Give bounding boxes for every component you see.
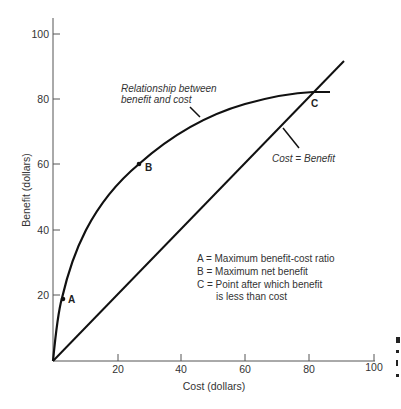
point-b-marker xyxy=(137,162,142,167)
legend-item: A = Maximum benefit-cost ratio xyxy=(197,253,335,264)
x-tick-label: 40 xyxy=(175,363,187,375)
y-tick-label: 80 xyxy=(37,93,49,105)
y-tick-label: 60 xyxy=(37,158,49,170)
y-tick-label: 40 xyxy=(37,224,49,236)
legend-item: is less than cost xyxy=(216,291,287,302)
curve-annotation: benefit and cost xyxy=(121,94,193,105)
line-leader-line xyxy=(283,128,299,148)
legend: A = Maximum benefit-cost ratio B = Maxim… xyxy=(197,253,335,302)
y-tick-label: 100 xyxy=(31,28,49,40)
curve-leader-line xyxy=(190,107,200,117)
point-a-label: A xyxy=(68,294,75,305)
y-ticks: 100 80 60 40 20 xyxy=(31,28,60,301)
cropped-page-text xyxy=(396,337,400,377)
point-c-label: C xyxy=(311,98,318,109)
y-tick-label: 20 xyxy=(37,289,49,301)
x-tick-label: 20 xyxy=(112,363,124,375)
x-tick-label: 80 xyxy=(303,363,315,375)
point-b-label: B xyxy=(145,162,152,173)
benefit-cost-chart: 100 80 60 40 20 20 40 60 80 100 Cost (do… xyxy=(0,0,401,409)
legend-item: B = Maximum net benefit xyxy=(197,266,308,277)
x-tick-label: 100 xyxy=(365,361,383,373)
y-axis-title: Benefit (dollars) xyxy=(20,153,32,227)
benefit-cost-curve xyxy=(53,92,330,361)
line-annotation: Cost = Benefit xyxy=(272,153,336,164)
curve-annotation: Relationship between xyxy=(121,83,217,94)
point-a-marker xyxy=(61,297,66,302)
x-axis-title: Cost (dollars) xyxy=(183,380,245,392)
x-tick-label: 60 xyxy=(239,363,251,375)
x-ticks: 20 40 60 80 100 xyxy=(112,354,383,375)
legend-item: C = Point after which benefit xyxy=(197,279,323,290)
